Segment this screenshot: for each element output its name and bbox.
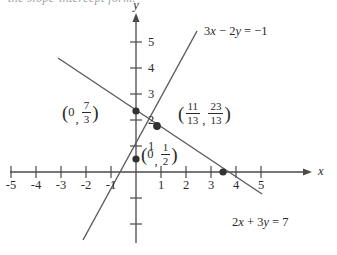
coordinate-graph-figure: the slope-intercept form. [0, 0, 337, 255]
fraction-denominator: 13 [208, 114, 223, 126]
fraction-1-2: 1 2 [161, 142, 171, 167]
fraction-numerator: 11 [186, 101, 201, 114]
comma: , [201, 114, 207, 127]
x-tick-label--3: -3 [51, 178, 71, 193]
eq1-rhs: −1 [254, 24, 267, 38]
fraction-7-3: 7 3 [82, 100, 92, 125]
x-tick-label-2: 2 [176, 178, 196, 193]
comma: , [154, 155, 160, 168]
fraction-11-13: 11 13 [185, 101, 200, 126]
x-tick-label--5: -5 [1, 178, 21, 193]
x-tick-label-1: 1 [151, 178, 171, 193]
x-axis-label: x [318, 164, 324, 179]
fraction-denominator: 3 [82, 113, 92, 125]
x-tick-label-3: 3 [201, 178, 221, 193]
paren-close: ) [171, 145, 177, 164]
fraction-23-13: 23 13 [208, 101, 223, 126]
fraction-numerator: 1 [161, 142, 171, 155]
x-tick-label-4: 4 [226, 178, 246, 193]
y-axis-arrowhead [132, 13, 139, 22]
line-3x-minus-2y [83, 31, 197, 240]
y-tick-label-5: 5 [144, 35, 158, 50]
point-label-0-1over2: ( 0 , 1 2 ) [141, 142, 178, 167]
paren-close: ) [224, 104, 230, 123]
point-x-intercept-3point5 [219, 168, 226, 175]
x-tick-label--2: -2 [76, 178, 96, 193]
point-label-intersection: ( 11 13 , 23 13 ) [178, 101, 231, 126]
point-label-0-7over3: ( 0 , 7 3 ) [62, 100, 99, 125]
fraction-numerator: 7 [82, 100, 92, 113]
point-y-intercept-1-2 [132, 155, 139, 162]
point-y-intercept-7-3 [132, 107, 139, 114]
equation-label-line1: 3x − 2y = −1 [204, 24, 268, 39]
fraction-denominator: 13 [185, 114, 200, 126]
y-tick-label-4: 4 [144, 61, 158, 76]
y-axis-label: y [133, 0, 139, 13]
fraction-numerator: 23 [208, 101, 223, 114]
eq1-operator: − [219, 24, 226, 38]
eq1-var-x: x [210, 24, 216, 38]
eq2-equals: = [272, 215, 279, 229]
y-tick-label-3: 3 [144, 87, 158, 102]
fraction-denominator: 2 [161, 155, 171, 167]
eq2-var-y: y [263, 215, 269, 229]
eq1-var-y: y [235, 24, 241, 38]
comma: , [75, 113, 81, 126]
paren-close: ) [92, 103, 98, 122]
paren-open: ( [178, 104, 184, 123]
eq1-equals: = [244, 24, 251, 38]
x-tick-label--1: -1 [101, 178, 121, 193]
x-axis-arrowhead [303, 168, 312, 175]
eq2-var-x: x [238, 215, 244, 229]
eq2-rhs: 7 [282, 215, 288, 229]
eq2-operator: + [247, 215, 254, 229]
x-tick-label--4: -4 [26, 178, 46, 193]
equation-label-line2: 2x + 3y = 7 [232, 215, 289, 230]
x-tick-label-5: 5 [251, 178, 271, 193]
y-tick-label-2: 2 [144, 113, 158, 128]
